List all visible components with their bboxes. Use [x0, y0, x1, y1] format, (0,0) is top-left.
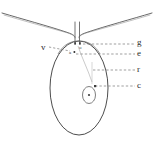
- callout-label-r: r: [137, 65, 140, 74]
- diagram-canvas: [0, 0, 154, 145]
- diagonal-strand: [78, 46, 92, 82]
- leader-v: [49, 47, 70, 51]
- callout-label-c: c: [137, 81, 141, 90]
- callout-label-e: e: [137, 49, 141, 58]
- inline-label-a: a: [69, 50, 71, 55]
- inner-cell-nucleus: [88, 94, 90, 96]
- chamber-marker: [74, 51, 76, 53]
- callout-label-v: v: [41, 43, 46, 52]
- neck-cell-marker-left: [74, 42, 76, 44]
- body-outline: [50, 41, 108, 135]
- surface-line-right-lower: [79, 15, 150, 38]
- inline-label-o: o: [79, 45, 82, 50]
- surface-line-left-lower: [4, 15, 75, 38]
- leader-c-arrowhead: [94, 85, 96, 87]
- figure-container: v g e r c o a: [0, 0, 154, 145]
- callout-label-g: g: [137, 38, 142, 47]
